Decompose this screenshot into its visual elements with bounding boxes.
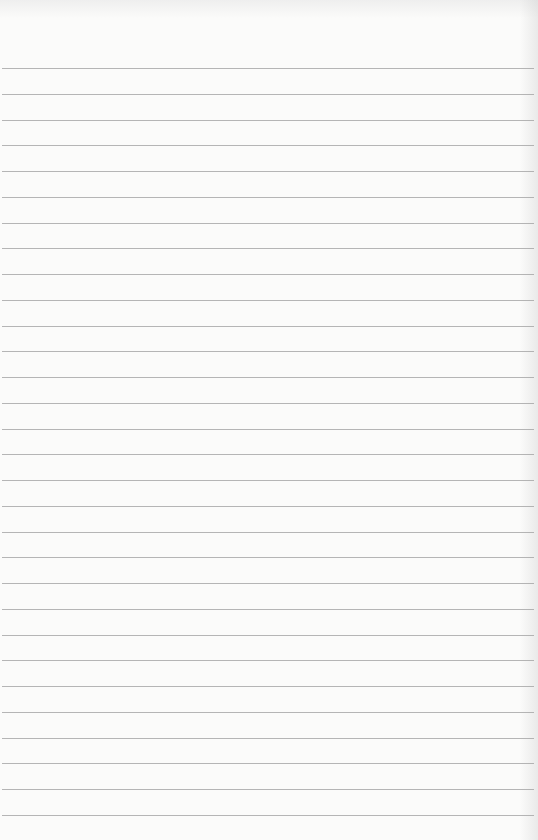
ruled-line [2,686,534,687]
ruled-line [2,403,534,404]
ruled-line [2,326,534,327]
ruled-line [2,763,534,764]
ruled-line [2,351,534,352]
lined-paper-page [0,0,538,840]
ruled-line [2,248,534,249]
ruled-line [2,429,534,430]
ruled-line [2,274,534,275]
ruled-line [2,480,534,481]
ruled-line [2,120,534,121]
ruled-line [2,454,534,455]
ruled-line [2,197,534,198]
ruled-line [2,738,534,739]
ruled-line [2,94,534,95]
ruled-line [2,789,534,790]
ruled-line [2,300,534,301]
ruled-line [2,583,534,584]
ruled-line [2,557,534,558]
ruled-line [2,145,534,146]
ruled-line [2,377,534,378]
ruled-line [2,506,534,507]
ruled-line [2,712,534,713]
ruled-line [2,223,534,224]
ruled-lines [0,0,538,840]
ruled-line [2,815,534,816]
ruled-line [2,635,534,636]
ruled-line [2,609,534,610]
ruled-line [2,660,534,661]
ruled-line [2,532,534,533]
ruled-line [2,171,534,172]
ruled-line [2,68,534,69]
